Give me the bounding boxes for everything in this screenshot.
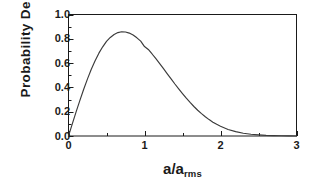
data-curve-rayleigh [69,32,297,136]
plot-area [0,0,322,191]
chart-figure: Probability Density a/arms 0.00.20.40.60… [0,0,322,191]
tick-marks [69,16,298,137]
plot-frame [69,15,297,137]
